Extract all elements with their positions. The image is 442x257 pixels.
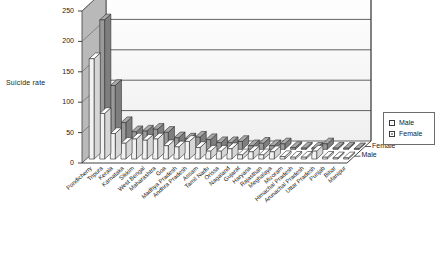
legend-swatch-female xyxy=(389,131,395,137)
bar xyxy=(301,142,312,149)
bar xyxy=(333,152,344,159)
bar xyxy=(132,133,143,159)
chart-legend[interactable]: MaleFemale xyxy=(383,112,435,145)
chart-figure: Suicide rate 250200150100500 Pondicherry… xyxy=(0,0,442,257)
legend-label: Male xyxy=(399,118,414,127)
y-tick-label: 200 xyxy=(52,37,74,44)
bar xyxy=(291,151,302,159)
y-tick-label: 100 xyxy=(52,98,74,105)
bar xyxy=(291,142,302,150)
bar xyxy=(89,53,100,159)
y-tick-label: 250 xyxy=(52,7,74,14)
legend-swatch-male xyxy=(389,120,395,126)
bar xyxy=(322,151,333,159)
bar xyxy=(110,128,121,159)
bar xyxy=(238,149,249,159)
legend-item[interactable]: Male xyxy=(389,117,430,128)
depth-axis-label: Male xyxy=(361,151,376,158)
legend-item[interactable]: Female xyxy=(389,128,430,139)
y-tick-label: 50 xyxy=(52,129,74,136)
bar xyxy=(301,151,312,159)
bar xyxy=(153,133,164,159)
y-tick-label: 0 xyxy=(52,159,74,166)
bar xyxy=(280,151,291,159)
bar xyxy=(354,143,365,149)
y-tick-label: 150 xyxy=(52,68,74,75)
y-axis-ticks xyxy=(78,11,82,163)
legend-label: Female xyxy=(399,129,422,138)
bar xyxy=(259,149,270,159)
bar xyxy=(333,142,344,149)
bar xyxy=(344,142,355,149)
bar xyxy=(100,108,111,159)
